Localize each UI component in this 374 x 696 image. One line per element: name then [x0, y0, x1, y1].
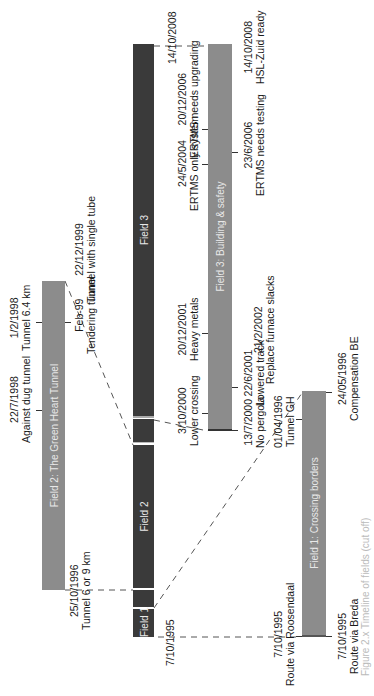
field3-bar: Field 3 [133, 44, 154, 418]
annotation: 7/10/1995 [164, 619, 176, 666]
tick [232, 387, 238, 388]
annotation: 20/12/2006 ERTMS needs upgrading [176, 40, 200, 158]
annotation: 1/2/1998 Tunnel 6.4 km [8, 285, 32, 351]
figure-caption: Figure 2.x Timeline of fields (cut off) [360, 518, 371, 676]
field2-label: Field 2 [138, 445, 149, 588]
tick [202, 164, 208, 165]
tick [296, 419, 302, 420]
tick [202, 129, 208, 130]
tick [65, 322, 71, 323]
crossing-borders-label: Field 1: Crossing borders [309, 391, 320, 635]
annotation: 23/6/2006 ERTMS needs testing [242, 94, 266, 196]
annotation: 7/10/1995 Route via Roosendaal [272, 583, 296, 686]
tick [232, 430, 238, 431]
field1-field2-slice [133, 590, 154, 607]
annotation: 22/12/1999 Tunnel with single tube [73, 196, 97, 303]
tick [326, 636, 332, 637]
tick [326, 392, 332, 393]
building-safety-bar: Field 3: Building & safety [208, 44, 232, 431]
timeline-diagram: Field 1 Field 2 Field 3 Field 2: The Gre… [0, 0, 374, 696]
tick [296, 636, 302, 637]
annotation: 14/10/2008 [166, 11, 178, 64]
annotation: 21/2/2002 Replace furnace slacks [252, 275, 276, 384]
crossing-borders-bar: Field 1: Crossing borders [302, 391, 326, 637]
annotation: 7/10/1995 Route via Breda [336, 599, 360, 674]
annotation: 20/12/2001 Heavy metals [176, 297, 200, 361]
tick [36, 322, 42, 323]
green-heart-tunnel-bar: Field 2: The Green Heart Tunnel [42, 281, 65, 590]
tick [232, 152, 238, 153]
annotation: 22/7/1998 Against dug tunnel [8, 356, 32, 443]
field2-bar: Field 2 [133, 445, 154, 588]
field1-bar: Field 1 [133, 609, 154, 637]
annotation: 14/10/2008 HSL-Zuid ready [242, 10, 266, 84]
field1-label: Field 1 [138, 609, 149, 637]
annotation: 24/05/1996 Compensation BE [336, 336, 360, 421]
building-safety-label: Field 3: Building & safety [215, 44, 226, 429]
field3-label: Field 3 [138, 44, 149, 416]
annotation: 25/10/1996 Tunnel 6 or 9 km [68, 552, 92, 630]
tick [202, 333, 208, 334]
annotation: 3/10/2000 Lower crossing [176, 375, 200, 446]
tick [36, 410, 42, 411]
annotation: 01/04/1996 Tunnel GH [272, 395, 296, 448]
green-heart-tunnel-label: Field 2: The Green Heart Tunnel [48, 281, 59, 590]
tick [202, 413, 208, 414]
field2-field3-slice [133, 419, 154, 443]
